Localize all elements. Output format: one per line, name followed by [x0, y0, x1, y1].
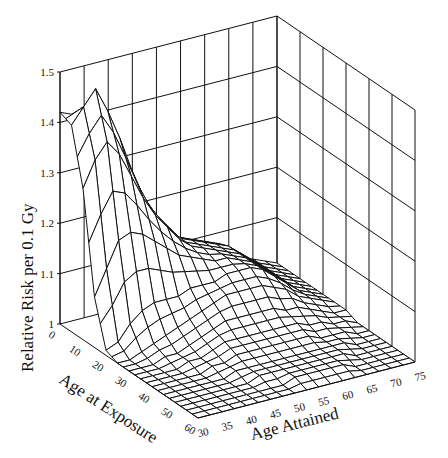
z-tick-label: 1.2 — [40, 217, 54, 229]
z-tick-label: 1.5 — [40, 66, 54, 78]
risk-surface-mesh — [60, 89, 415, 418]
y-tick-label: 30 — [196, 425, 210, 439]
x-tick-label: 0 — [47, 328, 59, 341]
y-tick-label: 70 — [389, 375, 403, 389]
surface-chart: 11.11.21.31.41.5 0102030405060 303540455… — [0, 0, 448, 458]
x-tick-label: 40 — [136, 389, 152, 405]
x-tick-label: 20 — [90, 358, 106, 374]
x-tick-label: 50 — [159, 405, 175, 421]
wall-gridline — [60, 16, 415, 110]
z-tick-label: 1.4 — [40, 116, 54, 128]
z-tick-label: 1.1 — [40, 268, 54, 280]
y-tick-label: 65 — [365, 381, 379, 395]
y-tick-label: 75 — [413, 369, 427, 383]
z-axis-title: Relative Risk per 0.1 Gy — [18, 203, 37, 372]
x-tick-label: 10 — [67, 342, 83, 358]
y-tick-label: 35 — [220, 419, 234, 433]
y-tick-label: 60 — [341, 388, 355, 402]
z-axis-tick-labels: 11.11.21.31.41.5 — [40, 66, 60, 330]
x-tick-label: 30 — [113, 374, 129, 390]
z-tick-label: 1.3 — [40, 167, 54, 179]
